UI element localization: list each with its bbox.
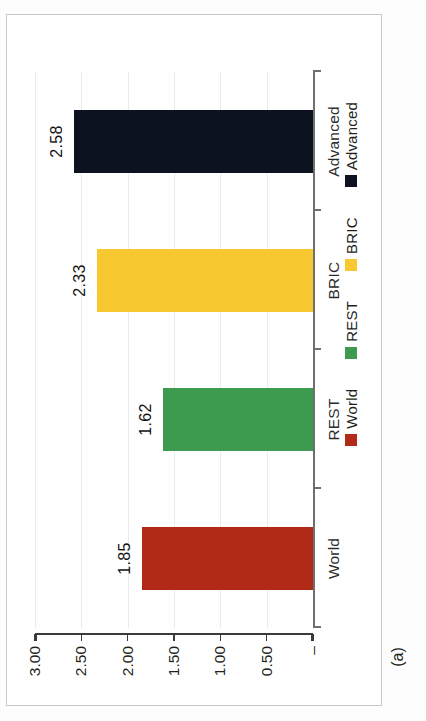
legend-label: REST (343, 301, 360, 342)
category-separator (313, 349, 321, 351)
legend-swatch-icon (345, 175, 357, 187)
axis-tick (127, 634, 129, 641)
legend-swatch-icon (345, 259, 357, 271)
legend-label: Advanced (343, 102, 360, 170)
figure-page: –0.501.001.502.002.503.00 1.85World1.62R… (0, 0, 426, 721)
chart-legend: AdvancedBRICRESTWorld (339, 72, 363, 628)
bar-rest (163, 388, 313, 451)
legend-swatch-icon (345, 347, 357, 359)
legend-item-advanced: Advanced (343, 102, 360, 187)
axis-tick-label: 1.00 (211, 646, 229, 676)
category-separator (313, 488, 321, 490)
bar-advanced (74, 110, 313, 173)
axis-tick (34, 634, 36, 641)
category-separator (313, 210, 321, 212)
bar-value-label: 1.62 (137, 403, 155, 435)
category-axis-endcap (313, 627, 321, 629)
axis-tick-label: – (304, 646, 322, 655)
legend-item-bric: BRIC (343, 217, 360, 271)
legend-label: BRIC (343, 217, 360, 254)
legend-item-rest: REST (343, 301, 360, 359)
axis-tick (312, 634, 314, 641)
bar-value-label: 1.85 (116, 542, 134, 574)
bar-value-label: 2.33 (71, 264, 89, 296)
axis-tick-label: 1.50 (165, 646, 183, 676)
axis-tick-label: 2.50 (72, 646, 90, 676)
chart-rotation-wrapper: –0.501.001.502.002.503.00 1.85World1.62R… (0, 0, 426, 721)
gridline (35, 72, 36, 628)
legend-swatch-icon (345, 434, 357, 446)
axis-tick-label: 2.00 (119, 646, 137, 676)
axis-tick (220, 634, 222, 641)
figure-caption: (a) (389, 647, 407, 667)
axis-tick-label: 3.00 (26, 646, 44, 676)
axis-tick (173, 634, 175, 641)
legend-item-world: World (343, 389, 360, 446)
axis-tick (266, 634, 268, 641)
axis-tick-label: 0.50 (258, 646, 276, 676)
bar-chart: –0.501.001.502.002.503.00 1.85World1.62R… (27, 30, 399, 690)
bar-world (142, 527, 313, 590)
category-axis-line (313, 72, 315, 628)
legend-label: World (343, 389, 360, 429)
axis-tick (81, 634, 83, 641)
bar-bric (97, 249, 313, 312)
category-axis-endcap (313, 71, 321, 73)
bar-value-label: 2.58 (48, 125, 66, 157)
